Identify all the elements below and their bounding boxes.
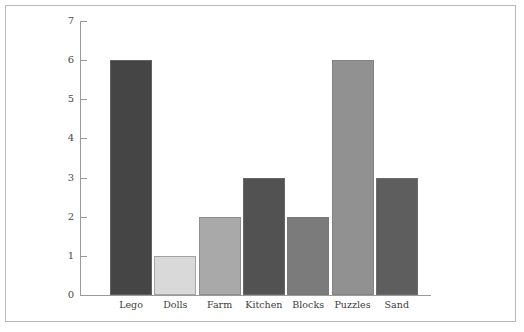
y-axis-tick-label: 6 bbox=[58, 55, 74, 65]
y-axis-tick bbox=[81, 60, 87, 61]
x-axis-line bbox=[80, 295, 431, 296]
bar-kitchen bbox=[243, 178, 285, 295]
y-axis-tick-label: 3 bbox=[58, 173, 74, 183]
y-axis-tick-label: 2 bbox=[58, 212, 74, 222]
y-axis-tick-label: 0 bbox=[58, 290, 74, 300]
y-axis-tick-label-text: 4 bbox=[60, 133, 74, 143]
chart-screenshot: 01234567 LegoDollsFarmKitchenBlocksPuzzl… bbox=[0, 0, 524, 332]
y-axis-tick bbox=[81, 21, 87, 22]
y-axis-tick-label: 1 bbox=[58, 251, 74, 261]
bar-dolls bbox=[154, 256, 196, 295]
bar-puzzles bbox=[332, 60, 374, 295]
bar-chart-plot-area: 01234567 LegoDollsFarmKitchenBlocksPuzzl… bbox=[0, 0, 524, 332]
y-axis-tick bbox=[81, 138, 87, 139]
y-axis-tick-label-text: 3 bbox=[60, 173, 74, 183]
y-axis-tick-label-text: 7 bbox=[60, 16, 74, 26]
y-axis-tick bbox=[81, 178, 87, 179]
y-axis-tick bbox=[81, 217, 87, 218]
y-axis-tick-label-text: 6 bbox=[60, 55, 74, 65]
y-axis-tick-label-text: 2 bbox=[60, 212, 74, 222]
y-axis-line bbox=[80, 21, 81, 296]
y-axis-tick bbox=[81, 256, 87, 257]
bar-sand bbox=[376, 178, 418, 295]
y-axis-tick-label: 4 bbox=[58, 133, 74, 143]
y-axis-tick bbox=[81, 295, 87, 296]
x-axis-label-sand: Sand bbox=[366, 299, 428, 311]
y-axis-tick bbox=[81, 99, 87, 100]
bar-lego bbox=[110, 60, 152, 295]
bar-blocks bbox=[287, 217, 329, 295]
y-axis-tick-label-text: 1 bbox=[60, 251, 74, 261]
y-axis-tick-label-text: 5 bbox=[60, 94, 74, 104]
y-axis-tick-label-text: 0 bbox=[60, 290, 74, 300]
y-axis-tick-label: 5 bbox=[58, 94, 74, 104]
y-axis-tick-label: 7 bbox=[58, 16, 74, 26]
bar-farm bbox=[199, 217, 241, 295]
